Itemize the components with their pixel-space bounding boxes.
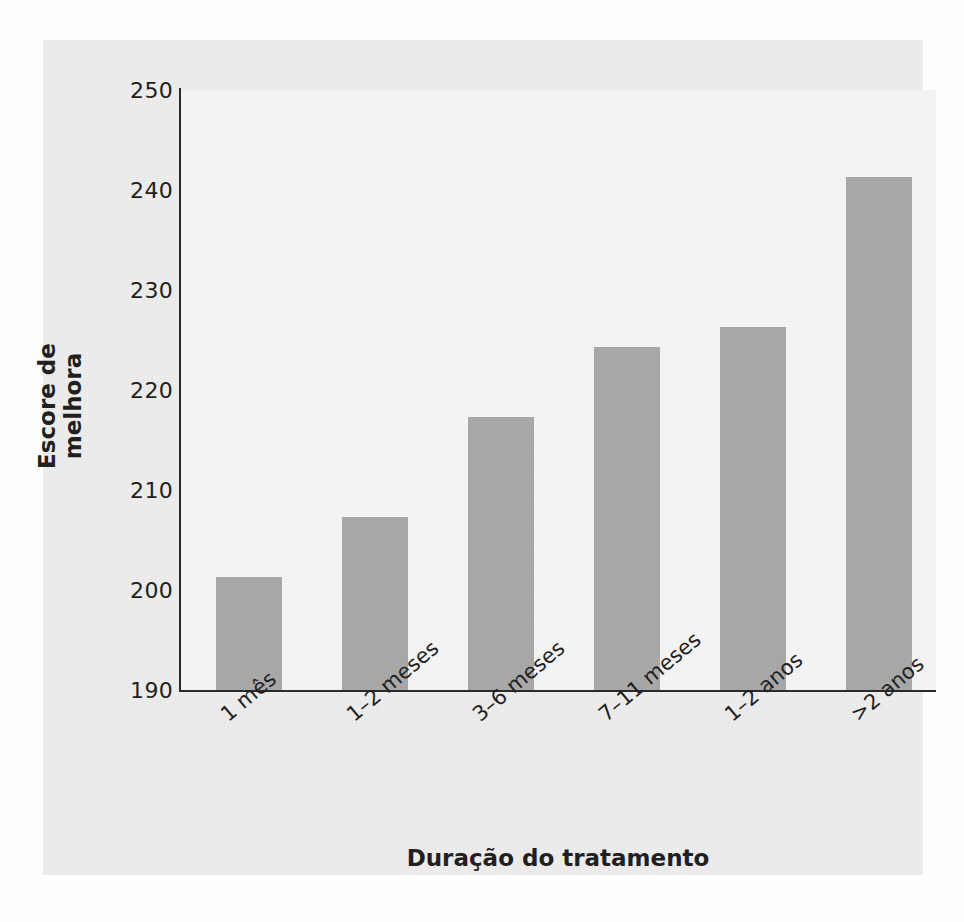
bar	[720, 327, 786, 690]
x-axis-line	[179, 690, 936, 692]
bar	[468, 417, 534, 690]
y-tick-label: 240	[109, 178, 173, 203]
x-axis-title: Duração do tratamento	[180, 845, 936, 871]
y-axis-tick-labels: 250240230220210200190	[105, 0, 173, 922]
bar-chart-figure: 250240230220210200190 1 mês1–2 meses3–6 …	[0, 0, 964, 922]
bar	[846, 177, 912, 690]
bar	[216, 577, 282, 690]
y-tick-label: 250	[109, 78, 173, 103]
y-tick-label: 220	[109, 378, 173, 403]
y-tick-label: 230	[109, 278, 173, 303]
y-tick-label: 200	[109, 578, 173, 603]
y-tick-label: 210	[109, 478, 173, 503]
x-axis-tick-labels: 1 mês1–2 meses3–6 meses7–11 meses1–2 ano…	[180, 700, 940, 840]
y-axis-title: Escore de melhora	[34, 306, 86, 506]
y-tick-label: 190	[109, 678, 173, 703]
bar	[594, 347, 660, 690]
bars-layer	[180, 90, 936, 690]
